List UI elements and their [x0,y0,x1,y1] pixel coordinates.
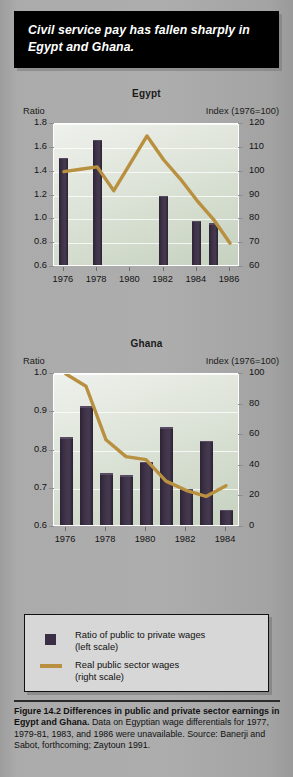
x-axis-tickmark [163,267,164,271]
line-series [54,374,239,526]
y-axis-tick-label-left: 0.6 [17,520,47,530]
y-axis-tickmark-right [238,526,243,527]
line-series [54,124,239,266]
y-axis-tick-label-left: 0.6 [17,260,47,270]
y-axis-tick-label-left: 0.8 [17,444,47,454]
chart-egypt-title: Egypt [0,88,293,99]
y-axis-tick-label-right: 80 [249,212,279,222]
chart-ghana-title: Ghana [0,338,293,349]
y-axis-tickmark-right [238,404,243,405]
y-axis-tickmark-right [238,242,243,243]
y-axis-tickmark-left [49,171,54,172]
x-axis-tickmark [225,527,226,531]
y-axis-tickmark-left [49,411,54,412]
headline-banner: Civil service pay has fallen sharply in … [14,11,279,68]
y-axis-tick-label-right: 100 [249,367,279,377]
headline-text: Civil service pay has fallen sharply in … [28,22,269,55]
x-axis-tickmark [105,527,106,531]
chart-egypt-left-axis-label: Ratio [23,106,45,116]
caption-rule [14,700,280,702]
x-axis-tick-label: 1980 [125,534,165,544]
x-axis-tickmark [185,527,186,531]
y-axis-tick-label-right: 80 [249,398,279,408]
x-axis-tick-label: 1976 [45,534,85,544]
chart-ghana-left-axis-label: Ratio [23,356,45,366]
x-axis-tick-label: 1978 [85,534,125,544]
y-axis-tick-label-left: 0.7 [17,482,47,492]
legend-line-label-line2: (right scale) [75,671,179,683]
x-axis-tickmark [63,267,64,271]
y-axis-tick-label-right: 90 [249,189,279,199]
y-axis-tickmark-right [238,195,243,196]
chart-egypt-right-axis-label: Index (1976=100) [206,106,279,116]
x-axis-tickmark [129,267,130,271]
x-axis-tick-label: 1986 [209,274,249,284]
chart-ghana-plot-area [53,373,239,526]
y-axis-tick-label-left: 1.6 [17,141,47,151]
x-axis-tickmark [65,527,66,531]
y-axis-tickmark-left [49,450,54,451]
y-axis-tick-label-right: 40 [249,459,279,469]
y-axis-tickmark-left [49,373,54,374]
figure-caption: Figure 14.2 Differences in public and pr… [14,706,282,752]
legend-line-swatch-icon [40,664,62,668]
y-axis-tick-label-right: 110 [249,141,279,151]
y-axis-tick-label-right: 120 [249,117,279,127]
x-axis-tick-label: 1982 [165,534,205,544]
y-axis-tickmark-right [238,373,243,374]
y-axis-tick-label-right: 0 [249,520,279,530]
y-axis-tick-label-right: 70 [249,236,279,246]
y-axis-tickmark-left [49,218,54,219]
figure-page: Civil service pay has fallen sharply in … [0,0,293,777]
y-axis-tickmark-right [238,465,243,466]
x-axis-tickmark [196,267,197,271]
legend-bar-swatch-icon [45,634,56,645]
y-axis-tick-label-left: 1.8 [17,117,47,127]
y-axis-tick-label-left: 1.2 [17,189,47,199]
y-axis-tickmark-right [238,147,243,148]
y-axis-tickmark-right [238,434,243,435]
chart-egypt-plot-area [53,123,239,266]
y-axis-tick-label-right: 60 [249,428,279,438]
legend-box: Ratio of public to private wages (left s… [24,614,269,692]
y-axis-tick-label-right: 20 [249,489,279,499]
y-axis-tickmark-right [238,218,243,219]
y-axis-tick-label-left: 1.0 [17,212,47,222]
chart-ghana-right-axis-label: Index (1976=100) [206,356,279,366]
chart-egypt: Egypt Ratio Index (1976=100) 0.60.81.01.… [0,88,293,323]
x-axis-tick-label: 1984 [205,534,245,544]
y-axis-tickmark-right [238,171,243,172]
y-axis-tick-label-left: 1.4 [17,165,47,175]
x-axis-tickmark [96,267,97,271]
chart-ghana: Ghana Ratio Index (1976=100) 0.60.70.80.… [0,338,293,583]
y-axis-tickmark-left [49,242,54,243]
y-axis-tickmark-right [238,266,243,267]
y-axis-tickmark-left [49,266,54,267]
y-axis-tickmark-left [49,147,54,148]
x-axis-tickmark [145,527,146,531]
x-axis-tickmark [229,267,230,271]
legend-bar-label-line1: Ratio of public to private wages [75,629,205,641]
legend-bar-label: Ratio of public to private wages (left s… [75,629,205,652]
y-axis-tickmark-left [49,123,54,124]
legend-line-label-line1: Real public sector wages [75,659,179,671]
y-axis-tickmark-left [49,526,54,527]
y-axis-tick-label-right: 100 [249,165,279,175]
legend-bar-label-line2: (left scale) [75,641,205,653]
y-axis-tick-label-right: 60 [249,260,279,270]
y-axis-tick-label-left: 1.0 [17,367,47,377]
y-axis-tickmark-right [238,495,243,496]
y-axis-tickmark-right [238,123,243,124]
legend-line-label: Real public sector wages (right scale) [75,659,179,682]
y-axis-tick-label-left: 0.8 [17,236,47,246]
y-axis-tickmark-left [49,195,54,196]
y-axis-tick-label-left: 0.9 [17,405,47,415]
y-axis-tickmark-left [49,488,54,489]
